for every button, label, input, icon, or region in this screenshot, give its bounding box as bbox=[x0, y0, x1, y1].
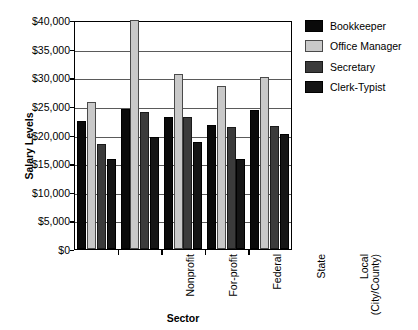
bar-bookkeeper bbox=[121, 109, 130, 249]
bar-secretary bbox=[97, 144, 106, 249]
y-tick-label: $25,000 bbox=[4, 102, 70, 112]
x-tick-mark bbox=[205, 250, 206, 255]
x-tick-label: Local (City/County) bbox=[359, 254, 381, 330]
bar-groups bbox=[75, 22, 291, 249]
bar-clerk bbox=[193, 142, 202, 249]
bar-clerk bbox=[150, 137, 159, 249]
bar-office bbox=[217, 86, 226, 249]
y-tick-label: $35,000 bbox=[4, 45, 70, 55]
x-tick-mark bbox=[161, 250, 162, 255]
bar-secretary bbox=[270, 126, 279, 249]
legend-label: Office Manager bbox=[330, 40, 402, 52]
bar-clerk bbox=[107, 159, 116, 249]
bar-secretary bbox=[140, 112, 149, 249]
bar-office bbox=[130, 20, 139, 249]
x-tick-label: State bbox=[316, 254, 327, 330]
bar-group bbox=[75, 22, 118, 249]
legend-swatch-icon bbox=[305, 81, 323, 93]
bar-clerk bbox=[236, 159, 245, 249]
legend-label: Clerk-Typist bbox=[330, 81, 385, 93]
legend-swatch-icon bbox=[305, 61, 323, 73]
plot-area bbox=[74, 21, 292, 250]
legend-label: Bookkeeper bbox=[330, 20, 386, 32]
bar-bookkeeper bbox=[77, 121, 86, 249]
legend-item: Clerk-Typist bbox=[305, 78, 417, 97]
x-tick-mark bbox=[248, 250, 249, 255]
bar-bookkeeper bbox=[207, 125, 216, 249]
y-tick-mark bbox=[70, 250, 74, 251]
bar-office bbox=[260, 77, 269, 249]
bar-secretary bbox=[183, 117, 192, 249]
y-tick-label: $30,000 bbox=[4, 73, 70, 83]
y-tick-label: $15,000 bbox=[4, 159, 70, 169]
y-tick-label: $0 bbox=[4, 245, 70, 255]
x-axis-title: Sector bbox=[74, 312, 292, 324]
bar-clerk bbox=[280, 134, 289, 249]
bar-group bbox=[161, 22, 204, 249]
legend-item: Office Manager bbox=[305, 37, 417, 56]
legend-label: Secretary bbox=[330, 61, 375, 73]
y-axis-ticks: $40,000$35,000$30,000$25,000$20,000$15,0… bbox=[0, 0, 70, 251]
legend-item: Secretary bbox=[305, 57, 417, 76]
bar-office bbox=[87, 102, 96, 249]
legend-swatch-icon bbox=[305, 40, 323, 52]
bar-bookkeeper bbox=[250, 110, 259, 249]
chart-legend: BookkeeperOffice ManagerSecretaryClerk-T… bbox=[305, 16, 417, 98]
bar-bookkeeper bbox=[164, 117, 173, 249]
bar-group bbox=[248, 22, 291, 249]
y-tick-label: $10,000 bbox=[4, 188, 70, 198]
y-tick-label: $40,000 bbox=[4, 16, 70, 26]
legend-item: Bookkeeper bbox=[305, 16, 417, 35]
y-tick-label: $20,000 bbox=[4, 131, 70, 141]
bar-office bbox=[174, 74, 183, 249]
bar-secretary bbox=[227, 127, 236, 249]
bar-group bbox=[118, 22, 161, 249]
y-tick-label: $5,000 bbox=[4, 216, 70, 226]
bar-group bbox=[205, 22, 248, 249]
bar-chart: Salary Levels $40,000$35,000$30,000$25,0… bbox=[0, 0, 418, 330]
legend-swatch-icon bbox=[305, 20, 323, 32]
x-tick-mark bbox=[118, 250, 119, 255]
